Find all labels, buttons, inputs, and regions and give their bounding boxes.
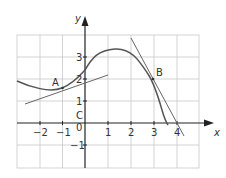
x-tick-label: 3 xyxy=(151,127,157,138)
y-tick-label: 3 xyxy=(76,52,82,63)
point-b-marker xyxy=(152,78,155,81)
curve-label: C xyxy=(76,110,83,121)
x-axis-label: x xyxy=(213,127,220,138)
x-tick-label: 0 xyxy=(76,122,82,133)
y-tick-label: 2 xyxy=(76,74,82,85)
grid xyxy=(17,35,199,168)
axes xyxy=(17,22,208,168)
x-tick-label: −2 xyxy=(33,127,48,138)
x-tick-label: 4 xyxy=(174,127,180,138)
y-tick-label: 1 xyxy=(76,96,82,107)
function-graph: A B C x y −2 −1 0 1 2 3 4 −1 1 2 3 xyxy=(0,0,226,178)
point-a-marker xyxy=(61,87,64,90)
tangent-line-b xyxy=(131,38,184,136)
x-tick-label: 2 xyxy=(128,127,134,138)
x-tick-labels: −2 −1 0 1 2 3 4 xyxy=(33,122,180,138)
y-axis-label: y xyxy=(74,13,82,24)
y-tick-label: −1 xyxy=(70,140,85,151)
x-tick-label: −1 xyxy=(56,127,71,138)
point-b-label: B xyxy=(156,67,163,78)
x-tick-label: 1 xyxy=(105,127,111,138)
x-axis-arrow-icon xyxy=(204,120,214,127)
point-a-label: A xyxy=(52,77,59,88)
y-axis-arrow-icon xyxy=(82,16,89,26)
y-tick-labels: −1 1 2 3 xyxy=(70,52,85,151)
